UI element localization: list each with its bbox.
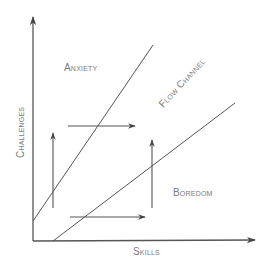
- flow-diagram: Anxiety Flow Channel Boredom Skills Chal…: [0, 0, 266, 267]
- anxiety-label: Anxiety: [64, 62, 97, 73]
- boredom-boundary-line: [53, 103, 235, 241]
- x-axis-label: Skills: [133, 246, 160, 257]
- flow-channel-label: Flow Channel: [156, 56, 207, 109]
- x-axis: [33, 240, 255, 241]
- boredom-label: Boredom: [173, 187, 213, 198]
- y-axis-label: Challenges: [15, 107, 26, 158]
